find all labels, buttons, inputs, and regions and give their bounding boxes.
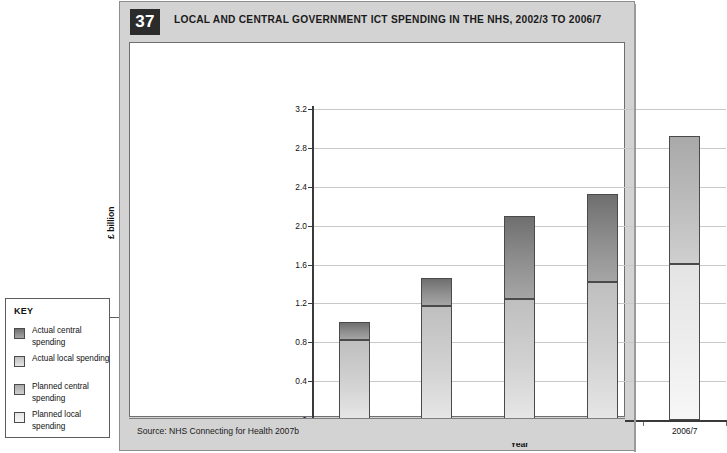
y-axis-tick-mark — [308, 381, 312, 382]
figure-title: LOCAL AND CENTRAL GOVERNMENT ICT SPENDIN… — [174, 14, 624, 25]
legend-item-actual-central: Actual central spending — [14, 327, 109, 353]
bar-segment-planned-central — [669, 136, 700, 263]
legend-swatch-actual-local-icon — [14, 356, 25, 367]
legend-label-actual-central: Actual central spending — [32, 325, 110, 348]
legend-item-actual-local: Actual local spending — [14, 355, 109, 381]
bar-2004-5 — [504, 216, 535, 420]
bar-segment-actual-central — [504, 216, 535, 299]
y-axis-tick-label: 0.4 — [273, 376, 307, 386]
bar-segment-actual-central — [421, 278, 452, 306]
gridline — [313, 148, 726, 149]
legend-swatch-planned-central-icon — [14, 384, 25, 395]
figure-panel: 37 LOCAL AND CENTRAL GOVERNMENT ICT SPEN… — [119, 1, 635, 451]
plot-area — [313, 109, 726, 420]
y-axis-tick-label: 1.2 — [273, 298, 307, 308]
legend-box: KEY Actual central spending Actual local… — [5, 298, 110, 438]
bar-segment-planned-local — [669, 264, 700, 420]
legend-item-planned-central: Planned central spending — [14, 383, 109, 409]
bar-segment-actual-local — [504, 299, 535, 420]
y-axis-tick-mark — [308, 265, 312, 266]
bar-segment-actual-local — [421, 306, 452, 420]
y-axis-tick-label: 2.4 — [273, 182, 307, 192]
legend-label-actual-local: Actual local spending — [32, 353, 110, 365]
chart-card: £ billion Year 00.40.81.21.62.02.42.83.2… — [129, 42, 625, 417]
legend-label-planned-local: Planned local spending — [32, 409, 110, 432]
y-axis-tick-mark — [308, 226, 312, 227]
y-axis-tick-label: 1.6 — [273, 260, 307, 270]
legend-swatch-actual-central-icon — [14, 328, 25, 339]
bar-segment-actual-local — [339, 340, 370, 420]
y-axis-tick-label: 2.0 — [273, 221, 307, 231]
legend-title: KEY — [14, 306, 33, 316]
x-axis-tick-label: 2006/7 — [645, 426, 725, 436]
gridline — [313, 109, 726, 110]
y-axis-title: £ billion — [106, 207, 116, 239]
figure-header: 37 LOCAL AND CENTRAL GOVERNMENT ICT SPEN… — [120, 2, 634, 42]
bar-2006-7 — [669, 136, 700, 420]
y-axis-tick-label: 3.2 — [273, 104, 307, 114]
legend-item-planned-local: Planned local spending — [14, 411, 109, 437]
y-axis-tick-mark — [308, 109, 312, 110]
y-axis-tick-label: 0.8 — [273, 337, 307, 347]
source-text: Source: NHS Connecting for Health 2007b — [137, 426, 299, 436]
legend-swatch-planned-local-icon — [14, 412, 25, 423]
y-axis-line — [312, 106, 314, 423]
legend-label-planned-central: Planned central spending — [32, 381, 110, 404]
bar-2003-4 — [421, 278, 452, 420]
y-axis-tick-mark — [308, 303, 312, 304]
y-axis-tick-mark — [308, 342, 312, 343]
bar-segment-actual-local — [587, 282, 618, 420]
y-axis-tick-label: 2.8 — [273, 143, 307, 153]
source-strip: Source: NHS Connecting for Health 2007b — [129, 418, 625, 443]
gridline — [313, 187, 726, 188]
bar-segment-actual-central — [339, 322, 370, 340]
y-axis-tick-mark — [308, 148, 312, 149]
bar-2002-3 — [339, 322, 370, 420]
bar-segment-actual-central — [587, 194, 618, 282]
y-axis-tick-mark — [308, 187, 312, 188]
bar-2005-6 — [587, 194, 618, 420]
figure-number-badge: 37 — [130, 9, 160, 35]
